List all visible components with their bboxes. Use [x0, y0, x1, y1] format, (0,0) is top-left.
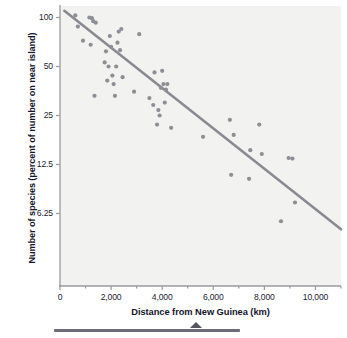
data-point	[110, 73, 114, 77]
y-tick-label: 50	[7, 61, 53, 71]
data-point	[287, 156, 291, 160]
scatter-plot-canvas	[0, 0, 347, 338]
data-point	[132, 90, 136, 94]
data-point	[118, 48, 122, 52]
data-point	[160, 69, 164, 73]
data-point	[113, 94, 117, 98]
data-point	[104, 49, 108, 53]
data-point	[232, 133, 236, 137]
data-point	[161, 82, 165, 86]
data-point	[247, 177, 251, 181]
data-point	[114, 64, 118, 68]
data-point	[228, 118, 232, 122]
data-point	[156, 108, 160, 112]
data-point	[163, 101, 167, 105]
data-point	[257, 122, 261, 126]
chart-figure: Number of species (percent of number on …	[0, 0, 347, 338]
plot-background	[60, 6, 341, 286]
x-tick-label: 10,000	[285, 292, 345, 302]
y-tick-label: 12.5	[7, 159, 53, 169]
data-point	[159, 86, 163, 90]
data-point	[137, 32, 141, 36]
data-point	[169, 126, 173, 130]
data-point	[248, 148, 252, 152]
y-tick-label: 6.25	[7, 208, 53, 218]
data-point	[158, 113, 162, 117]
data-point	[112, 82, 116, 86]
data-point	[229, 173, 233, 177]
data-point	[81, 39, 85, 43]
footer-progress-bar[interactable]	[54, 329, 240, 332]
data-point	[105, 78, 109, 82]
data-point	[164, 88, 168, 92]
data-point	[279, 219, 283, 223]
data-point	[120, 75, 124, 79]
data-point	[73, 13, 77, 17]
data-point	[115, 41, 119, 45]
data-point	[293, 200, 297, 204]
data-point	[89, 43, 93, 47]
data-point	[290, 156, 294, 160]
data-point	[92, 94, 96, 98]
data-point	[108, 34, 112, 38]
data-point	[103, 60, 107, 64]
data-point	[119, 27, 123, 31]
data-point	[201, 135, 205, 139]
data-point	[109, 45, 113, 49]
data-point	[152, 70, 156, 74]
y-tick-label: 100	[7, 12, 53, 22]
data-point	[106, 64, 110, 68]
data-point	[147, 96, 151, 100]
data-point	[165, 82, 169, 86]
footer-caret-icon[interactable]	[190, 322, 202, 328]
data-point	[155, 122, 159, 126]
y-tick-label: 25	[7, 110, 53, 120]
data-point	[94, 21, 98, 25]
data-point	[260, 152, 264, 156]
data-point	[151, 103, 155, 107]
data-point	[76, 24, 80, 28]
